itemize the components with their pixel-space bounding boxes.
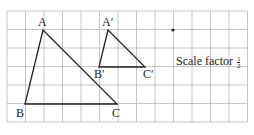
scale-factor-fraction: 1 2 [237, 56, 241, 69]
label-a-prime: A′ [102, 16, 113, 28]
scale-factor-label: Scale factor 1 2 [176, 55, 240, 69]
label-c: C [112, 107, 120, 119]
centre-of-enlargement-dot [171, 28, 174, 31]
label-a: A [38, 16, 47, 28]
label-b-prime: B′ [94, 68, 105, 80]
label-c-prime: C′ [143, 68, 154, 80]
triangle-a-prime-b-prime-c-prime [99, 30, 145, 67]
scale-factor-text: Scale factor [176, 54, 233, 68]
label-b: B [16, 107, 24, 119]
fraction-denominator: 2 [237, 63, 241, 69]
